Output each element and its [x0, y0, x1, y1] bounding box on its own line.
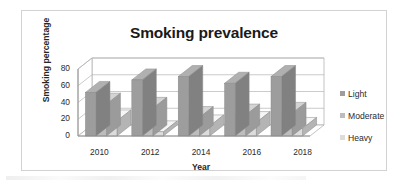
bar-light-2014[interactable] — [178, 66, 203, 136]
plot-svg — [74, 54, 328, 143]
x-tick-label: 2012 — [125, 147, 176, 161]
x-tick-label: 2014 — [176, 147, 227, 161]
legend-item[interactable]: Light — [340, 89, 403, 98]
x-axis-title: Year — [74, 162, 328, 172]
bar-light-2016[interactable] — [225, 72, 250, 136]
bar-light-2018[interactable] — [271, 66, 296, 136]
chart-frame: Smoking prevalence Smoking percentage 02… — [21, 10, 387, 171]
bar-light-2010[interactable] — [85, 81, 110, 136]
y-axis-tick-labels: 020406080 — [46, 54, 70, 143]
legend-item[interactable]: Moderate — [340, 111, 403, 120]
x-tick-label: 2018 — [277, 147, 328, 161]
y-tick-label: 40 — [48, 98, 70, 106]
legend-swatch-icon — [340, 91, 345, 96]
y-tick-label: 80 — [48, 64, 70, 72]
x-tick-label: 2016 — [226, 147, 277, 161]
y-tick-label: 0 — [48, 131, 70, 139]
legend-label: Light — [348, 89, 367, 99]
y-tick-label: 60 — [48, 81, 70, 89]
legend-label: Moderate — [348, 111, 384, 121]
chart-figure: Smoking prevalence Smoking percentage 02… — [0, 0, 403, 187]
chart-title: Smoking prevalence — [22, 24, 386, 42]
x-tick-label: 2010 — [74, 147, 125, 161]
legend-swatch-icon — [340, 135, 345, 140]
scan-artifact — [6, 176, 306, 180]
bar-light-2012[interactable] — [132, 69, 157, 136]
y-tick-label: 20 — [48, 114, 70, 122]
plot-area — [74, 54, 328, 143]
chart-legend: LightModerateHeavy — [340, 89, 403, 155]
x-axis-tick-labels: 20102012201420162018 — [74, 147, 328, 161]
legend-label: Heavy — [348, 133, 372, 143]
legend-swatch-icon — [340, 113, 345, 118]
legend-item[interactable]: Heavy — [340, 133, 403, 142]
